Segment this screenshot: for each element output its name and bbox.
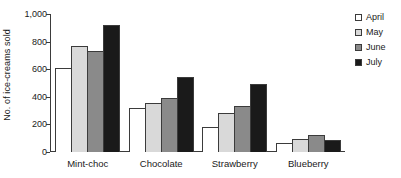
bar-group	[272, 14, 346, 152]
bar-group	[198, 14, 272, 152]
y-tick-label: 1,000	[24, 10, 47, 19]
legend-swatch-icon	[355, 59, 362, 66]
bar	[145, 103, 162, 152]
bar	[324, 140, 341, 152]
bar	[276, 143, 293, 152]
legend-label: April	[366, 13, 384, 22]
legend-label: May	[366, 28, 383, 37]
bar	[308, 135, 325, 152]
y-tick-mark	[46, 97, 50, 98]
legend-item: June	[355, 40, 401, 55]
legend-label: June	[366, 43, 386, 52]
y-tick-label: 200	[32, 120, 47, 129]
y-tick-mark	[46, 42, 50, 43]
y-tick-mark	[46, 124, 50, 125]
legend-item: May	[355, 25, 401, 40]
bar	[177, 77, 194, 152]
bar	[55, 68, 72, 152]
plot-area	[50, 14, 345, 152]
legend-swatch-icon	[355, 14, 362, 21]
bar	[161, 98, 178, 153]
bar	[250, 84, 267, 152]
bar	[234, 106, 251, 152]
bar	[71, 46, 88, 152]
y-tick-label: 400	[32, 92, 47, 101]
legend-label: July	[366, 58, 382, 67]
legend-swatch-icon	[355, 29, 362, 36]
y-axis-title: No. of ice-creams sold	[0, 0, 14, 150]
bar	[202, 127, 219, 152]
x-axis-label: Blueberry	[272, 157, 346, 171]
bar-group	[125, 14, 199, 152]
bar-chart: No. of ice-creams sold 02004006008001,00…	[0, 0, 401, 178]
bar	[87, 51, 104, 152]
x-axis-label: Mint-choc	[51, 157, 125, 171]
x-axis-label: Strawberry	[198, 157, 272, 171]
bar	[103, 25, 120, 152]
y-tick-mark	[46, 69, 50, 70]
legend-swatch-icon	[355, 44, 362, 51]
y-tick-label: 600	[32, 65, 47, 74]
bar	[218, 113, 235, 152]
x-axis-label: Chocolate	[125, 157, 199, 171]
bar	[292, 139, 309, 152]
bar	[129, 108, 146, 152]
bar-group	[51, 14, 125, 152]
y-tick-mark	[46, 152, 50, 153]
legend-item: April	[355, 10, 401, 25]
y-tick-mark	[46, 14, 50, 15]
y-axis-tick-labels: 02004006008001,000	[14, 0, 50, 152]
legend-item: July	[355, 55, 401, 70]
y-axis-title-text: No. of ice-creams sold	[2, 29, 12, 121]
y-tick-label: 800	[32, 37, 47, 46]
legend: AprilMayJuneJuly	[355, 10, 401, 70]
bar-groups	[51, 14, 345, 152]
x-axis-category-labels: Mint-chocChocolateStrawberryBlueberry	[51, 157, 345, 171]
